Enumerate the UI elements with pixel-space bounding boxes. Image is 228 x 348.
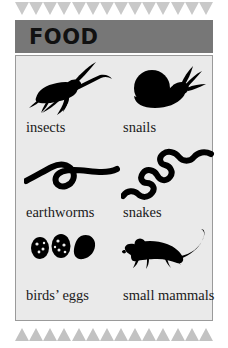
food-item-earthworms: earthworms (24, 145, 120, 220)
food-item-label: snails (121, 119, 217, 135)
triangle-down-icon (185, 2, 199, 15)
triangle-up-icon (86, 328, 100, 341)
food-item-label: birds’ eggs (24, 287, 120, 303)
triangle-down-icon (43, 2, 57, 15)
triangle-up-icon (156, 328, 170, 341)
triangle-up-icon (128, 328, 142, 341)
triangle-up-icon (72, 328, 86, 341)
triangle-up-icon (43, 328, 57, 341)
page-title: FOOD (29, 25, 98, 49)
food-item-label: small mammals (121, 287, 217, 303)
food-item-snails: snails (121, 60, 217, 135)
mouse-silhouette-icon (121, 228, 217, 286)
triangle-down-icon (199, 2, 213, 15)
food-item-label: insects (24, 119, 120, 135)
triangle-down-icon (114, 2, 128, 15)
card-header-band: FOOD (15, 20, 213, 53)
triangle-up-icon (199, 328, 213, 341)
snail-silhouette-icon (121, 60, 217, 118)
content-panel: insects (15, 55, 213, 321)
triangle-down-icon (29, 2, 43, 15)
triangle-up-icon (100, 328, 114, 341)
triangle-up-icon (171, 328, 185, 341)
triangle-up-icon (15, 328, 29, 341)
cricket-silhouette-icon (24, 60, 120, 118)
top-triangle-border (15, 2, 213, 18)
food-item-grid: insects (16, 56, 212, 320)
triangle-down-icon (86, 2, 100, 15)
snake-silhouette-icon (121, 145, 217, 203)
earthworm-silhouette-icon (24, 145, 120, 203)
triangle-up-icon (29, 328, 43, 341)
triangle-down-icon (156, 2, 170, 15)
food-info-card: FOOD (0, 0, 228, 348)
triangle-up-icon (142, 328, 156, 341)
bottom-triangle-border (15, 325, 213, 341)
food-item-small-mammals: small mammals (121, 228, 217, 303)
triangle-down-icon (171, 2, 185, 15)
triangle-up-icon (57, 328, 71, 341)
food-item-insects: insects (24, 60, 120, 135)
food-item-snakes: snakes (121, 145, 217, 220)
food-item-label: earthworms (24, 204, 120, 220)
food-item-birds-eggs: birds’ eggs (24, 228, 120, 303)
triangle-down-icon (100, 2, 114, 15)
triangle-down-icon (128, 2, 142, 15)
triangle-up-icon (185, 328, 199, 341)
triangle-down-icon (72, 2, 86, 15)
food-item-label: snakes (121, 204, 217, 220)
triangle-down-icon (57, 2, 71, 15)
triangle-down-icon (142, 2, 156, 15)
bird-eggs-silhouette-icon (24, 228, 120, 286)
triangle-down-icon (15, 2, 29, 15)
triangle-up-icon (114, 328, 128, 341)
